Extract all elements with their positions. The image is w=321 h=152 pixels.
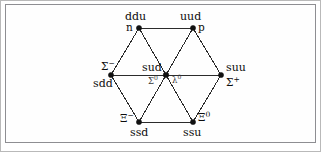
lambda-zero-charge: 0 xyxy=(177,73,181,80)
particle-label-sigma-zero: Σ0 xyxy=(148,77,158,86)
baryon-octet-figure: ddu n uud p Σ− sdd sud Σ0 λ0 suu Σ+ Ξ− s… xyxy=(0,0,321,152)
xi-minus-charge: − xyxy=(127,111,133,120)
particle-label-lambda-zero: λ0 xyxy=(172,76,181,85)
xi-zero-charge: 0 xyxy=(205,110,210,119)
edge-proton-sigma-plus xyxy=(193,28,221,75)
vertex-xi-minus[interactable] xyxy=(136,119,141,124)
particle-label-proton: p xyxy=(198,22,205,33)
vertex-sigma-plus[interactable] xyxy=(218,72,223,77)
sigma-plus-charge: + xyxy=(233,75,239,84)
quark-label-sud: sud xyxy=(142,62,162,73)
edge-neutron-sigma-minus xyxy=(111,28,139,75)
vertex-sigma-zero-lambda-zero[interactable] xyxy=(163,72,169,78)
vertex-proton[interactable] xyxy=(190,25,195,30)
quark-label-sdd: sdd xyxy=(93,78,113,89)
quark-label-suu: suu xyxy=(226,62,246,73)
particle-label-xi-minus: Ξ− xyxy=(120,113,134,124)
sigma-minus-charge: − xyxy=(108,59,114,68)
particle-label-sigma-plus: Σ+ xyxy=(226,77,240,88)
vertex-xi-zero[interactable] xyxy=(190,119,195,124)
particle-label-sigma-minus: Σ− xyxy=(101,61,115,72)
quark-label-ssu: ssu xyxy=(183,127,201,138)
octet-graph-svg xyxy=(0,0,321,152)
edge-proton-center xyxy=(166,28,193,75)
quark-label-ssd: ssd xyxy=(130,127,148,138)
sigma-zero-charge: 0 xyxy=(154,74,158,81)
particle-label-neutron: n xyxy=(126,22,133,33)
particle-label-xi-zero: Ξ0 xyxy=(198,112,210,123)
vertex-neutron[interactable] xyxy=(136,25,141,30)
